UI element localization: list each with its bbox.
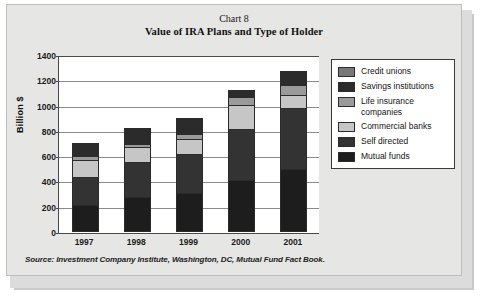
x-axis-tick-label: 1997	[75, 237, 94, 247]
legend-label: Credit unions	[361, 66, 411, 77]
x-axis-tick-label: 1998	[127, 237, 146, 247]
legend-swatch	[338, 122, 355, 132]
y-axis-tick-mark	[56, 233, 59, 234]
x-axis-tick-label: 2000	[231, 237, 250, 247]
bar-segment	[176, 119, 203, 135]
legend-label: Mutual funds	[361, 151, 410, 162]
bar-segment	[176, 193, 203, 232]
x-axis-tick-label: 1999	[179, 237, 198, 247]
chart-panel: Chart 8 Value of IRA Plans and Type of H…	[6, 4, 462, 276]
chart-number: Chart 8	[7, 13, 461, 25]
y-axis-tick-mark	[56, 132, 59, 133]
bar-segment	[228, 129, 255, 181]
y-axis-tick-mark	[56, 56, 59, 57]
bar-segment	[72, 205, 99, 232]
bar-1997	[72, 143, 99, 232]
legend-item: Commercial banks	[338, 121, 449, 132]
legend-swatch	[338, 82, 355, 92]
y-axis-tick-label: 1000	[37, 102, 56, 112]
bar-2001	[280, 71, 307, 232]
legend-item: Credit unions	[338, 66, 449, 77]
plot-area: 1400120010008006004002000 19971998199920…	[58, 56, 319, 238]
y-axis-tick-mark	[56, 107, 59, 108]
y-axis-tick-label: 800	[42, 127, 56, 137]
legend-label: Self directed	[361, 136, 408, 147]
y-axis-label: Billion $	[15, 96, 25, 133]
y-axis-tick-mark	[56, 81, 59, 82]
legend-swatch	[338, 67, 355, 77]
source-note: Source: Investment Company Institute, Wa…	[25, 255, 325, 264]
bar-segment	[228, 105, 255, 130]
bar-segment	[176, 154, 203, 194]
legend-item: Mutual funds	[338, 151, 449, 162]
y-axis-tick-mark	[56, 182, 59, 183]
plot-canvas: 1400120010008006004002000	[58, 56, 319, 234]
bar-segment	[72, 160, 99, 178]
chart-screenshot: Chart 8 Value of IRA Plans and Type of H…	[0, 0, 482, 298]
legend-label: Life insurance companies	[361, 96, 414, 117]
legend-item: Self directed	[338, 136, 449, 147]
legend-swatch	[338, 152, 355, 162]
y-axis-tick-label: 1200	[37, 76, 56, 86]
bar-1998	[124, 128, 151, 232]
bar-segment	[72, 177, 99, 206]
y-axis-tick-label: 600	[42, 152, 56, 162]
bar-1999	[176, 118, 203, 232]
legend-item: Life insurance companies	[338, 96, 449, 117]
y-axis-tick-mark	[56, 157, 59, 158]
page-title: Value of IRA Plans and Type of Holder	[7, 25, 461, 38]
legend-label: Commercial banks	[361, 121, 431, 132]
y-axis-tick-label: 200	[42, 203, 56, 213]
legend-swatch	[338, 97, 355, 107]
legend-item: Savings institutions	[338, 81, 449, 92]
chart-legend: Credit unionsSavings institutionsLife in…	[331, 59, 455, 169]
bar-segment	[176, 139, 203, 155]
bar-segment	[280, 108, 307, 170]
x-axis-tick-label: 2001	[283, 237, 302, 247]
legend-swatch	[338, 137, 355, 147]
title-block: Chart 8 Value of IRA Plans and Type of H…	[7, 13, 461, 38]
bar-segment	[124, 147, 151, 163]
legend-label: Savings institutions	[361, 81, 434, 92]
bar-segment	[280, 95, 307, 109]
plot-top-border	[59, 56, 319, 57]
bar-segment	[280, 72, 307, 85]
bar-segment	[124, 197, 151, 232]
y-axis-tick-label: 0	[51, 228, 56, 238]
bar-segment	[124, 162, 151, 198]
y-axis-tick-mark	[56, 208, 59, 209]
bar-2000	[228, 90, 255, 232]
y-axis-tick-label: 1400	[37, 51, 56, 61]
bar-segment	[124, 129, 151, 145]
bar-segment	[228, 180, 255, 232]
y-axis-tick-label: 400	[42, 177, 56, 187]
bar-segment	[280, 169, 307, 232]
